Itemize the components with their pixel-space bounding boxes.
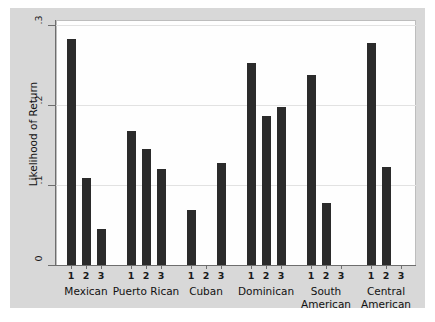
bars-layer (56, 20, 416, 265)
bar (82, 178, 91, 265)
x-tick-mark (206, 266, 207, 269)
x-axis-line (55, 265, 416, 266)
bar (142, 149, 151, 265)
y-tick-label: 0 (33, 256, 44, 272)
x-tick-mark (311, 266, 312, 269)
x-tick-label: 3 (272, 270, 290, 281)
bar (247, 63, 256, 265)
x-tick-label: 3 (392, 270, 410, 281)
x-tick-mark (71, 266, 72, 269)
bar (277, 107, 286, 265)
x-tick-label: 3 (332, 270, 350, 281)
x-tick-label: 3 (92, 270, 110, 281)
bar (382, 167, 391, 265)
bar (322, 203, 331, 265)
y-tick-label: .3 (33, 16, 44, 32)
x-tick-mark (341, 266, 342, 269)
x-tick-mark (401, 266, 402, 269)
bar (367, 43, 376, 265)
x-tick-mark (266, 266, 267, 269)
x-tick-mark (326, 266, 327, 269)
x-tick-mark (386, 266, 387, 269)
x-tick-mark (251, 266, 252, 269)
bar (187, 210, 196, 265)
x-tick-mark (101, 266, 102, 269)
y-axis-title: Likelihood of Return (27, 54, 39, 214)
group-label-line1: Central (367, 285, 405, 297)
bar (217, 163, 226, 265)
group-label-line2: American (336, 298, 435, 311)
bar (262, 116, 271, 265)
x-tick-mark (161, 266, 162, 269)
x-tick-mark (221, 266, 222, 269)
x-tick-mark (281, 266, 282, 269)
x-tick-mark (131, 266, 132, 269)
bar (157, 169, 166, 265)
x-tick-label: 3 (152, 270, 170, 281)
x-tick-label: 3 (212, 270, 230, 281)
x-tick-mark (86, 266, 87, 269)
bar (67, 39, 76, 265)
x-tick-mark (191, 266, 192, 269)
x-tick-mark (371, 266, 372, 269)
chart-figure: 0.1.2.3 Likelihood of Return 12312312312… (0, 0, 435, 322)
group-label: CentralAmerican (336, 285, 435, 310)
bar (97, 229, 106, 265)
bar (307, 75, 316, 265)
bar (127, 131, 136, 265)
x-tick-mark (146, 266, 147, 269)
